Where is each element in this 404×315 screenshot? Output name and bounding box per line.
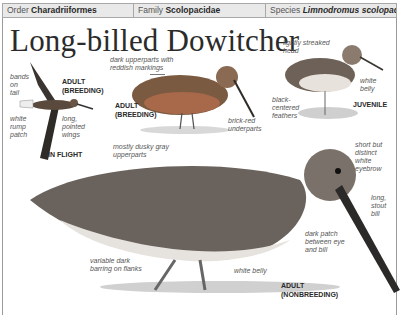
label-long-pointed-wings: long, pointed wings <box>62 115 85 139</box>
label-mostly-dusky-gray-upperparts: mostly dusky gray upperparts <box>113 143 169 159</box>
label-white-belly-adult: white belly <box>234 267 267 275</box>
label-white-belly-juvenile: white belly <box>360 77 376 93</box>
label-brick-red-underparts: brick-red underparts <box>228 117 261 133</box>
label-black-centered-feathers: black- centered feathers <box>272 96 299 120</box>
family-cell: Family Scolopacidae <box>134 4 266 17</box>
caption-juvenile: JUVENILE <box>353 101 387 110</box>
adult-nonbreeding-bird-illustration <box>20 145 400 305</box>
family-label: Family <box>138 5 163 15</box>
caption-adult-nonbreeding: ADULT (NONBREEDING) <box>281 282 338 299</box>
label-white-eyebrow: short but distinct white eyebrow <box>355 141 382 173</box>
caption-adult-breeding: ADULT (BREEDING) <box>115 102 157 119</box>
species-value: Limnodromus scolopaceus <box>303 5 396 15</box>
order-value: Charadriiformes <box>31 5 97 15</box>
species-label: Species <box>270 5 300 15</box>
label-bands-on-tail: bands on tail <box>10 73 29 97</box>
family-value: Scolopacidae <box>165 5 220 15</box>
leader-line <box>150 74 165 75</box>
label-variable-dark-barring: variable dark barring on flanks <box>90 257 142 273</box>
order-label: Order <box>7 5 29 15</box>
caption-flight-adult-breeding: ADULT (BREEDING) <box>62 78 104 95</box>
species-cell: Species Limnodromus scolopaceus <box>266 4 396 17</box>
label-lightly-streaked-head: lightly streaked head <box>283 39 330 55</box>
label-long-stout-bill: long, stout bill <box>371 194 386 218</box>
label-dark-patch-eye-bill: dark patch between eye and bill <box>305 230 345 254</box>
order-cell: Order Charadriiformes <box>3 4 134 17</box>
taxonomy-header: Order Charadriiformes Family Scolopacida… <box>2 3 397 18</box>
label-dark-upperparts: dark upperparts with reddish markings <box>110 56 173 72</box>
page-title: Long-billed Dowitcher <box>10 23 299 59</box>
label-white-rump-patch: white rump patch <box>10 115 27 139</box>
